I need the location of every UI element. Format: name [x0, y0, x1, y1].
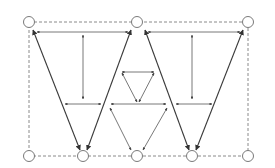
node-bottom-3 [132, 151, 143, 162]
left-v-left-arm [33, 30, 80, 150]
node-bottom-5 [243, 151, 254, 162]
left-v-right-arm [87, 30, 131, 150]
node-top-right [243, 17, 254, 28]
lower-left-diag [110, 108, 131, 150]
dashed-frame [29, 22, 248, 156]
nodes-group [24, 17, 254, 162]
node-top-left [24, 17, 35, 28]
right-v-left-arm [145, 30, 189, 150]
node-bottom-1 [24, 151, 35, 162]
lower-right-diag [143, 108, 167, 150]
diagram-canvas [0, 0, 275, 168]
right-v-right-arm [196, 30, 243, 150]
node-top-center [132, 17, 143, 28]
node-bottom-2 [78, 151, 89, 162]
inner-triangle-right [139, 73, 154, 102]
inner-triangle-left [122, 73, 137, 102]
edges-group [33, 30, 243, 150]
node-bottom-4 [187, 151, 198, 162]
